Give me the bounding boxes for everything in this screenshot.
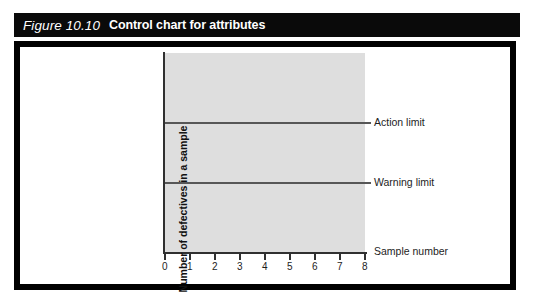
warning-limit-label: Warning limit bbox=[374, 176, 434, 188]
x-tick-label: 4 bbox=[257, 261, 273, 272]
x-axis-title: Sample number bbox=[374, 245, 448, 257]
x-tick-mark bbox=[364, 254, 366, 260]
x-tick-mark bbox=[264, 254, 266, 260]
x-tick-label: 2 bbox=[207, 261, 223, 272]
y-axis-line bbox=[163, 52, 165, 254]
action-limit-leader bbox=[365, 122, 371, 124]
y-axis-title: Number of defectives in a sample bbox=[177, 109, 189, 307]
x-tick-mark bbox=[289, 254, 291, 260]
x-tick-mark bbox=[339, 254, 341, 260]
x-tick-label: 8 bbox=[357, 261, 373, 272]
warning-limit-line bbox=[165, 182, 365, 184]
x-tick-label: 1 bbox=[182, 261, 198, 272]
x-tick-mark bbox=[189, 254, 191, 260]
action-limit-label: Action limit bbox=[374, 116, 425, 128]
plot-area bbox=[165, 53, 365, 253]
x-tick-label: 5 bbox=[282, 261, 298, 272]
x-tick-mark bbox=[314, 254, 316, 260]
x-tick-label: 7 bbox=[332, 261, 348, 272]
warning-limit-leader bbox=[365, 182, 371, 184]
action-limit-line bbox=[165, 122, 365, 124]
control-chart: Action limit Warning limit Sample number… bbox=[0, 0, 541, 307]
x-tick-label: 3 bbox=[232, 261, 248, 272]
y-axis-title-container: Number of defectives in a sample bbox=[143, 53, 159, 253]
x-tick-label: 0 bbox=[157, 261, 173, 272]
x-tick-mark bbox=[239, 254, 241, 260]
x-tick-mark bbox=[164, 254, 166, 260]
x-tick-mark bbox=[214, 254, 216, 260]
x-tick-label: 6 bbox=[307, 261, 323, 272]
